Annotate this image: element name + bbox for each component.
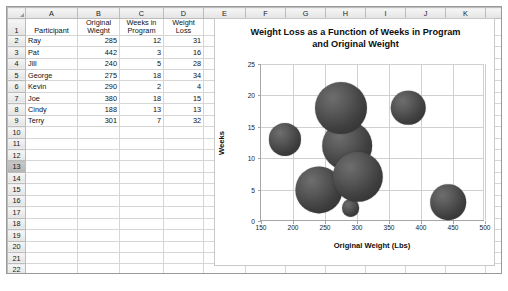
cell-original-weight[interactable]: 275 <box>78 69 120 80</box>
empty-cell[interactable] <box>164 207 204 218</box>
empty-cell[interactable] <box>78 264 120 274</box>
row-header-20[interactable]: 20 <box>8 241 26 252</box>
chart-bubble[interactable] <box>342 200 360 218</box>
cell-weight-loss[interactable]: 15 <box>164 92 204 103</box>
empty-cell[interactable] <box>78 252 120 263</box>
empty-cell[interactable] <box>26 184 78 195</box>
empty-cell[interactable] <box>164 218 204 229</box>
column-header-d[interactable]: D <box>164 8 204 19</box>
bubble-chart[interactable]: Weight Loss as a Function of Weeks in Pr… <box>214 18 495 266</box>
empty-cell[interactable] <box>78 161 120 172</box>
empty-cell[interactable] <box>120 161 164 172</box>
empty-cell[interactable] <box>164 230 204 241</box>
cell-weight-loss[interactable]: 16 <box>164 47 204 58</box>
empty-cell[interactable] <box>78 138 120 149</box>
empty-cell[interactable] <box>26 127 78 138</box>
empty-cell[interactable] <box>120 127 164 138</box>
chart-bubble[interactable] <box>332 152 382 202</box>
empty-cell[interactable] <box>26 161 78 172</box>
row-header-6[interactable]: 6 <box>8 81 26 92</box>
empty-cell[interactable] <box>164 150 204 161</box>
empty-cell[interactable] <box>120 184 164 195</box>
empty-cell[interactable] <box>78 218 120 229</box>
cell-weeks-in-program[interactable]: 5 <box>120 58 164 69</box>
row-header-17[interactable]: 17 <box>8 207 26 218</box>
cell-original-weight[interactable]: 301 <box>78 115 120 126</box>
row-header-2[interactable]: 2 <box>8 35 26 46</box>
empty-cell[interactable] <box>120 241 164 252</box>
plot-area[interactable]: 1502002503003504004505000510152025 <box>260 64 484 221</box>
header-weight-loss[interactable]: WeightLoss <box>164 19 204 35</box>
row-header-9[interactable]: 9 <box>8 115 26 126</box>
row-header-18[interactable]: 18 <box>8 218 26 229</box>
empty-cell[interactable] <box>26 207 78 218</box>
empty-cell[interactable] <box>164 161 204 172</box>
cell-weeks-in-program[interactable]: 3 <box>120 47 164 58</box>
empty-cell[interactable] <box>164 172 204 183</box>
row-header-11[interactable]: 11 <box>8 138 26 149</box>
row-header-13[interactable]: 13 <box>8 161 26 172</box>
chart-bubble[interactable] <box>391 91 426 126</box>
empty-cell[interactable] <box>26 230 78 241</box>
cell-weeks-in-program[interactable]: 18 <box>120 69 164 80</box>
column-header-a[interactable]: A <box>26 8 78 19</box>
empty-cell[interactable] <box>26 150 78 161</box>
cell-weight-loss[interactable]: 13 <box>164 104 204 115</box>
cell-weight-loss[interactable]: 34 <box>164 69 204 80</box>
header-original-weight[interactable]: OriginalWieght <box>78 19 120 35</box>
row-header-8[interactable]: 8 <box>8 104 26 115</box>
select-all-corner[interactable] <box>8 8 26 19</box>
cell-original-weight[interactable]: 380 <box>78 92 120 103</box>
row-header-7[interactable]: 7 <box>8 92 26 103</box>
row-header-4[interactable]: 4 <box>8 58 26 69</box>
row-header-22[interactable]: 22 <box>8 264 26 274</box>
cell-original-weight[interactable]: 240 <box>78 58 120 69</box>
empty-cell[interactable] <box>164 264 204 274</box>
empty-cell[interactable] <box>164 127 204 138</box>
empty-cell[interactable] <box>78 127 120 138</box>
row-header-21[interactable]: 21 <box>8 252 26 263</box>
empty-cell[interactable] <box>26 218 78 229</box>
chart-bubble[interactable] <box>315 82 367 134</box>
cell-weight-loss[interactable]: 4 <box>164 81 204 92</box>
empty-cell[interactable] <box>164 241 204 252</box>
row-header-12[interactable]: 12 <box>8 150 26 161</box>
empty-cell[interactable] <box>26 195 78 206</box>
empty-cell[interactable] <box>78 184 120 195</box>
row-header-10[interactable]: 10 <box>8 127 26 138</box>
empty-cell[interactable] <box>26 252 78 263</box>
empty-cell[interactable] <box>120 207 164 218</box>
cell-weeks-in-program[interactable]: 7 <box>120 115 164 126</box>
empty-cell[interactable] <box>120 138 164 149</box>
empty-cell[interactable] <box>120 264 164 274</box>
empty-cell[interactable] <box>164 138 204 149</box>
empty-cell[interactable] <box>120 172 164 183</box>
header-participant[interactable]: Participant <box>26 19 78 35</box>
empty-cell[interactable] <box>120 195 164 206</box>
cell-weight-loss[interactable]: 32 <box>164 115 204 126</box>
empty-cell[interactable] <box>78 241 120 252</box>
cell-original-weight[interactable]: 442 <box>78 47 120 58</box>
cell-original-weight[interactable]: 188 <box>78 104 120 115</box>
cell-original-weight[interactable]: 285 <box>78 35 120 46</box>
empty-cell[interactable] <box>78 172 120 183</box>
header-weeks-in-program[interactable]: Weeks inProgram <box>120 19 164 35</box>
column-header-b[interactable]: B <box>78 8 120 19</box>
empty-cell[interactable] <box>78 150 120 161</box>
empty-cell[interactable] <box>164 252 204 263</box>
cell-weight-loss[interactable]: 28 <box>164 58 204 69</box>
empty-cell[interactable] <box>120 218 164 229</box>
cell-participant[interactable]: George <box>26 69 78 80</box>
empty-cell[interactable] <box>26 264 78 274</box>
chart-bubble[interactable] <box>430 184 466 220</box>
cell-participant[interactable]: Cindy <box>26 104 78 115</box>
empty-cell[interactable] <box>78 195 120 206</box>
cell-weeks-in-program[interactable]: 13 <box>120 104 164 115</box>
empty-cell[interactable] <box>120 150 164 161</box>
cell-weeks-in-program[interactable]: 18 <box>120 92 164 103</box>
cell-participant[interactable]: Kevin <box>26 81 78 92</box>
empty-cell[interactable] <box>26 172 78 183</box>
cell-weeks-in-program[interactable]: 12 <box>120 35 164 46</box>
row-header-5[interactable]: 5 <box>8 69 26 80</box>
empty-cell[interactable] <box>78 207 120 218</box>
